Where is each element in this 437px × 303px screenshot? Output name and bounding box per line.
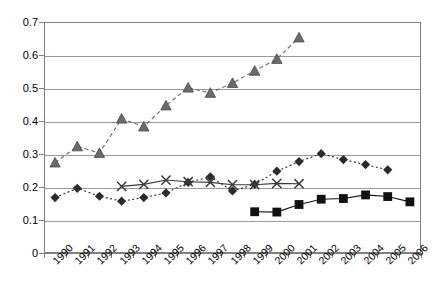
y-tick-label: 0.7 (0, 17, 38, 28)
y-tick-label: 0.2 (0, 182, 38, 193)
plot-area (44, 22, 421, 253)
y-tick-label: 0.1 (0, 215, 38, 226)
y-tick-label: 0.3 (0, 149, 38, 160)
y-tick-label: 0.4 (0, 116, 38, 127)
gridline (45, 155, 420, 156)
gridline (45, 89, 420, 90)
gridline (45, 56, 420, 57)
x-tick-mark (44, 253, 45, 258)
y-axis: 00.10.20.30.40.50.60.7 (0, 0, 38, 303)
chart-container: 00.10.20.30.40.50.60.7 19901991199219931… (0, 0, 437, 303)
y-tick-label: 0.6 (0, 50, 38, 61)
gridline (45, 221, 420, 222)
y-tick-label: 0 (0, 248, 38, 259)
gridline (45, 122, 420, 123)
gridline (45, 188, 420, 189)
y-tick-label: 0.5 (0, 83, 38, 94)
